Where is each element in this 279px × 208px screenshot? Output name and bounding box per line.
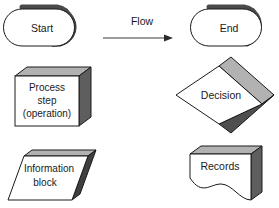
records-top-face bbox=[190, 146, 262, 154]
information-label-line1: Information bbox=[24, 163, 74, 174]
process-side-face bbox=[79, 67, 91, 126]
information-label-line2: block bbox=[33, 177, 57, 188]
process-top-face bbox=[15, 67, 91, 76]
end-label: End bbox=[220, 22, 239, 34]
shape-start[interactable]: Start bbox=[4, 7, 77, 46]
shape-records[interactable]: Records bbox=[190, 146, 262, 200]
flowchart-diagram: Start Flow End Process step (operation) bbox=[0, 0, 279, 208]
shape-process-step[interactable]: Process step (operation) bbox=[15, 67, 91, 126]
information-top-face bbox=[24, 150, 96, 156]
decision-label: Decision bbox=[201, 89, 241, 101]
records-label: Records bbox=[200, 160, 239, 172]
process-label-line3: (operation) bbox=[23, 108, 71, 119]
shape-decision[interactable]: Decision bbox=[176, 57, 274, 133]
start-label: Start bbox=[31, 22, 53, 34]
shape-end[interactable]: End bbox=[191, 7, 262, 46]
flow-arrow-head-icon bbox=[164, 35, 173, 42]
connector-label: Flow bbox=[131, 15, 154, 27]
process-label-line1: Process bbox=[29, 82, 65, 93]
connector-flow[interactable]: Flow bbox=[103, 15, 173, 41]
shape-information-block[interactable]: Information block bbox=[8, 150, 96, 200]
records-side-face bbox=[251, 146, 262, 200]
flowchart-canvas: Start Flow End Process step (operation) bbox=[0, 0, 279, 208]
process-label-line2: step bbox=[38, 95, 57, 106]
